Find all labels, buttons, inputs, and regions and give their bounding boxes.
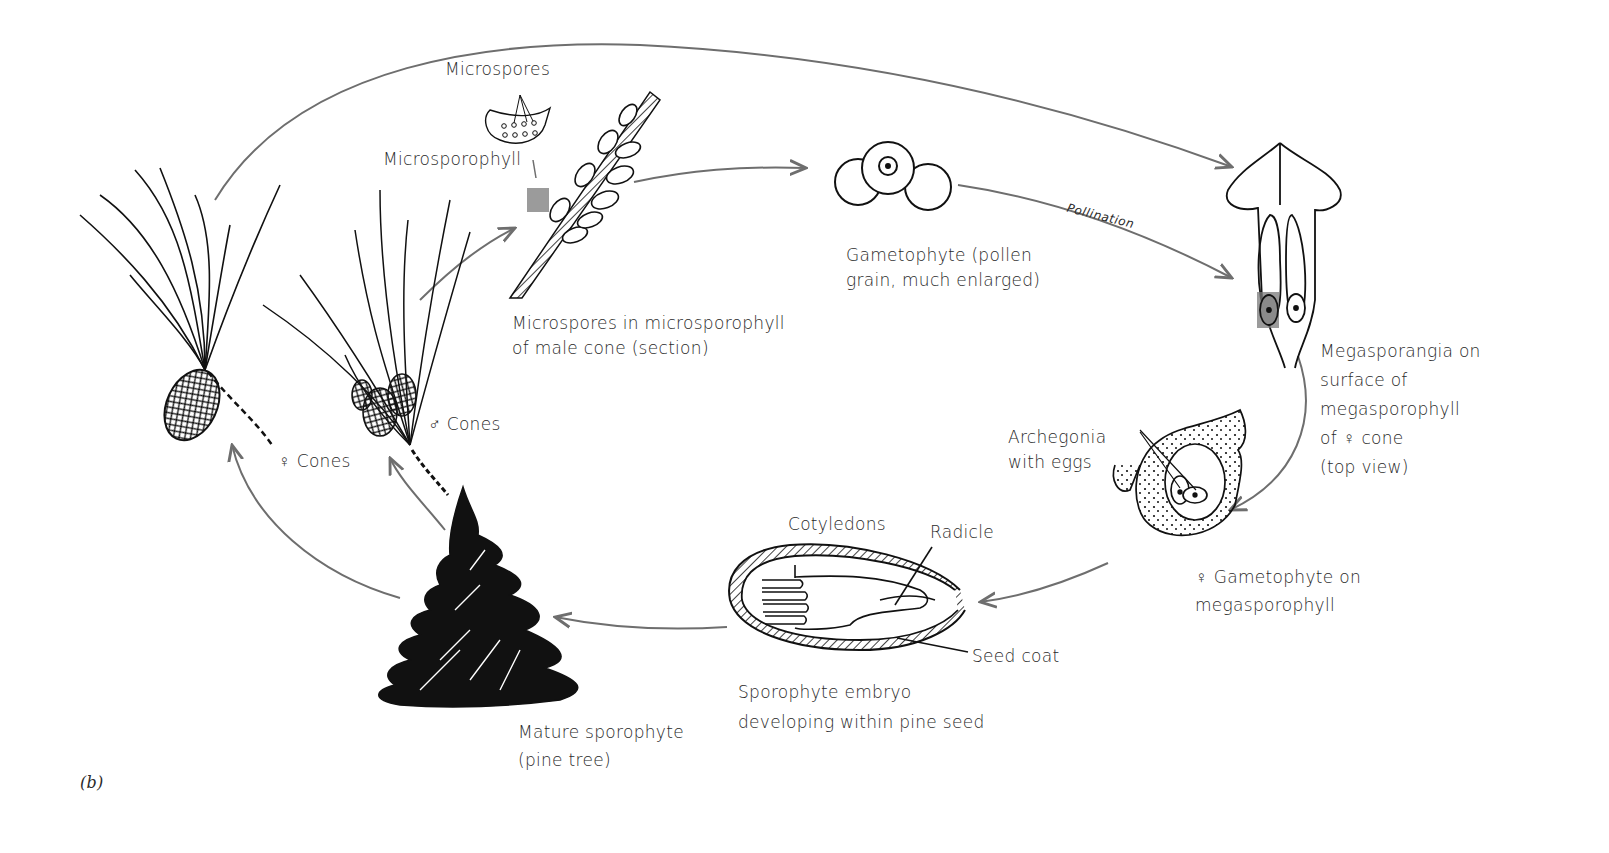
female-cone-branch-illustration <box>80 168 280 449</box>
label-archegonia: Archegonia with eggs <box>1008 425 1106 475</box>
pine-seed-illustration <box>729 544 968 652</box>
panel-label: (b) <box>80 770 104 795</box>
label-female-gametophyte: ♀ Gametophyte on megasporophyll <box>1195 563 1361 619</box>
label-megasporangia: Megasporangia on surface of megasporophy… <box>1320 337 1481 482</box>
arrow-branch-to-megasporophyll <box>215 44 1232 200</box>
label-pollen-gametophyte: Gametophyte (pollen grain, much enlarged… <box>846 243 1040 293</box>
label-sporophyte-embryo: Sporophyte embryo developing within pine… <box>738 677 985 737</box>
male-cone-section-illustration <box>486 92 660 298</box>
arrow-microsporophyll-to-pollen <box>634 168 806 182</box>
label-microsporophyll: Microsporophyll <box>383 147 521 172</box>
arrow-gametophyte-to-seed <box>980 563 1108 602</box>
label-microspores: Microspores <box>445 57 550 82</box>
arrow-seed-to-tree <box>555 617 727 629</box>
label-seed-coat: Seed coat <box>972 644 1059 669</box>
arrow-tree-to-male-cone <box>390 458 445 530</box>
female-cone <box>154 361 231 449</box>
megasporophyll-illustration <box>1227 143 1341 368</box>
pollen-grain-illustration <box>835 142 951 210</box>
label-cotyledons: Cotyledons <box>788 512 886 537</box>
label-male-cones: ♂ Cones <box>428 412 501 437</box>
label-mature-sporophyte: Mature sporophyte (pine tree) <box>518 718 684 774</box>
label-microspores-in-microsporophyll: Microspores in microsporophyll of male c… <box>512 311 785 361</box>
label-female-cones: ♀ Cones <box>278 449 351 474</box>
pine-tree-illustration <box>379 487 578 707</box>
label-radicle: Radicle <box>930 520 994 545</box>
pine-life-cycle-diagram: Microspores Microsporophyll Microspores … <box>0 0 1609 853</box>
microsporophyll-highlight-box <box>527 188 549 212</box>
female-gametophyte-illustration <box>1113 410 1245 535</box>
